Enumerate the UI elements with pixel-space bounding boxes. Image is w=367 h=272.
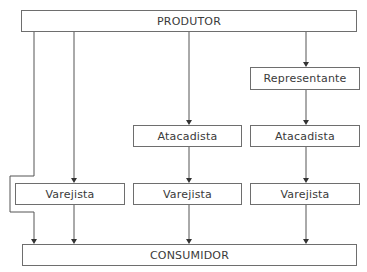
connector-direct xyxy=(10,32,34,240)
node-atacadista-4: Atacadista xyxy=(250,125,360,147)
node-produtor: PRODUTOR xyxy=(21,10,357,32)
node-representante: Representante xyxy=(250,67,360,90)
node-consumidor: CONSUMIDOR xyxy=(22,244,357,266)
node-varejista-2: Varejista xyxy=(15,183,125,205)
node-varejista-4: Varejista xyxy=(250,183,360,205)
node-varejista-3: Varejista xyxy=(133,183,242,205)
node-atacadista-3: Atacadista xyxy=(133,125,242,147)
